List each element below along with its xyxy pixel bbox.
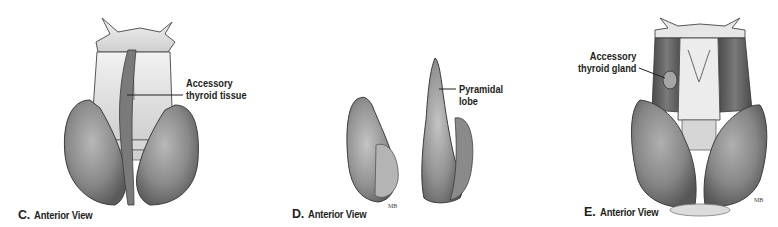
- thyroid-illustration-d: MB: [260, 0, 520, 227]
- panel-letter: D.: [292, 207, 304, 221]
- panel-caption-d: D. Anterior View: [292, 204, 373, 222]
- panel-caption-c: C. Anterior View: [18, 205, 99, 223]
- panel-caption-e: E. Anterior View: [584, 202, 665, 220]
- thyroid-illustration-e: MB: [520, 0, 778, 227]
- svg-text:MB: MB: [388, 203, 397, 209]
- callout-pyramidal-lobe: Pyramidal lobe: [459, 83, 503, 107]
- panel-caption-text: Anterior View: [308, 208, 366, 220]
- panel-e: MB Accessory thyroid gland E. Anterior V…: [520, 0, 778, 227]
- panel-letter: C.: [18, 208, 30, 222]
- svg-text:MB: MB: [754, 197, 763, 203]
- panel-letter: E.: [584, 205, 595, 219]
- panel-d: MB Pyramidal lobe D. Anterior View: [260, 0, 520, 227]
- callout-accessory-thyroid-tissue: Accessory thyroid tissue: [186, 77, 247, 101]
- thyroid-illustration-c: [0, 0, 260, 227]
- panel-caption-text: Anterior View: [600, 206, 658, 218]
- panel-caption-text: Anterior View: [34, 209, 92, 221]
- callout-accessory-thyroid-gland: Accessory thyroid gland: [577, 50, 636, 74]
- panel-c: Accessory thyroid tissue C. Anterior Vie…: [0, 0, 260, 227]
